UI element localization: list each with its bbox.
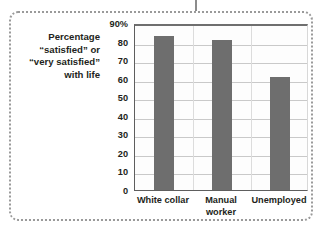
y-axis-tick-label: 50 xyxy=(118,93,128,103)
top-tick-mark xyxy=(195,0,197,11)
x-axis-category-label-line: Manual xyxy=(192,195,250,207)
x-axis-category-label-line: White collar xyxy=(134,195,192,207)
chart-caption: Percentage “satisfied” or “very satisfie… xyxy=(14,31,100,81)
y-axis: 0102030405060708090% xyxy=(103,24,131,191)
gridline-vertical xyxy=(193,26,194,190)
x-axis-category-label: Unemployed xyxy=(250,195,308,207)
y-axis-tick-label: 10 xyxy=(118,167,128,177)
x-axis-category-label: White collar xyxy=(134,195,192,207)
figure-container: Percentage “satisfied” or “very satisfie… xyxy=(0,0,323,232)
caption-line-3: “very satisfied” xyxy=(14,56,100,69)
y-axis-tick-label: 80 xyxy=(118,38,128,48)
caption-line-4: with life xyxy=(14,69,100,82)
bar xyxy=(154,36,174,190)
x-axis-category-label-line: Unemployed xyxy=(250,195,308,207)
bar-chart: 0102030405060708090% White collarManualw… xyxy=(103,24,308,210)
bar xyxy=(212,40,232,190)
y-axis-tick-label: 20 xyxy=(118,149,128,159)
x-axis-category-label: Manualworker xyxy=(192,195,250,218)
plot-area xyxy=(134,24,308,191)
y-axis-tick-label: 40 xyxy=(118,112,128,122)
caption-line-2: “satisfied” or xyxy=(14,44,100,57)
x-axis: White collarManualworkerUnemployed xyxy=(134,193,308,229)
x-axis-category-label-line: worker xyxy=(192,207,250,219)
gridline-vertical xyxy=(251,26,252,190)
y-axis-tick-label: 60 xyxy=(118,75,128,85)
bar xyxy=(270,77,290,190)
caption-line-1: Percentage xyxy=(14,31,100,44)
y-axis-tick-label: 30 xyxy=(118,130,128,140)
y-axis-tick-label: 70 xyxy=(118,56,128,66)
y-axis-tick-label: 90% xyxy=(110,19,128,29)
y-axis-tick-label: 0 xyxy=(123,186,128,196)
